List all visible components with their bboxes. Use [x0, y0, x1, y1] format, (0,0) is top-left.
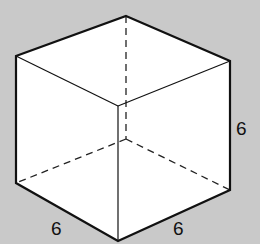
cube-silhouette — [16, 16, 230, 241]
left-width-label: 6 — [51, 218, 62, 239]
right-depth-label: 6 — [173, 218, 184, 239]
cube-svg: 6 6 6 — [0, 0, 260, 244]
height-label: 6 — [236, 118, 247, 139]
cube-diagram: 6 6 6 — [0, 0, 260, 244]
